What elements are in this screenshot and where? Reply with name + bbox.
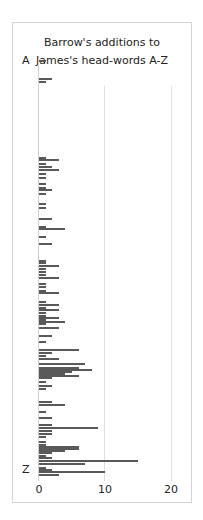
bar <box>39 286 46 288</box>
bar <box>39 78 52 80</box>
bar <box>39 304 59 306</box>
bar <box>39 228 65 230</box>
bar <box>39 401 52 403</box>
gridline-10 <box>104 86 105 481</box>
bar <box>39 411 46 413</box>
bar <box>39 236 46 238</box>
bar <box>39 404 65 406</box>
bar <box>39 460 138 462</box>
bar <box>39 166 52 168</box>
bar <box>39 327 59 329</box>
bar <box>39 262 46 264</box>
plot-area <box>0 0 203 520</box>
bar <box>39 81 46 83</box>
bar <box>39 424 52 426</box>
bar <box>39 189 52 191</box>
bar <box>39 349 79 351</box>
bar <box>39 268 46 270</box>
bar <box>39 243 52 245</box>
bar <box>39 173 46 175</box>
bar <box>39 388 46 390</box>
bar <box>39 159 59 161</box>
x-tick-10: 10 <box>98 483 112 496</box>
bar <box>39 271 46 273</box>
bar <box>39 292 59 294</box>
bar <box>39 177 46 179</box>
bar <box>39 436 46 438</box>
bar <box>39 452 52 454</box>
bar <box>39 463 85 465</box>
bar <box>39 301 46 303</box>
bar <box>39 60 46 62</box>
bar <box>39 183 46 185</box>
bar <box>39 363 85 365</box>
bar <box>39 309 59 311</box>
bar <box>39 430 52 432</box>
bar <box>39 441 46 443</box>
bar <box>39 381 46 383</box>
x-tick-20: 20 <box>164 483 178 496</box>
bar <box>39 203 46 205</box>
bar <box>39 335 52 337</box>
bar <box>39 312 46 314</box>
bar <box>39 352 52 354</box>
bar <box>39 277 59 279</box>
bar <box>39 471 105 473</box>
bar <box>39 433 52 435</box>
bar <box>39 474 59 476</box>
bar <box>39 283 46 285</box>
gridline-20 <box>171 86 172 481</box>
bar <box>39 163 46 165</box>
bar <box>39 169 59 171</box>
bar <box>39 377 52 379</box>
x-tick-0: 0 <box>36 483 43 496</box>
bar <box>39 207 46 209</box>
bar <box>39 341 46 343</box>
bar <box>39 358 59 360</box>
bar <box>39 385 52 387</box>
bar <box>39 218 52 220</box>
bar <box>39 323 46 325</box>
bar <box>39 355 46 357</box>
bar <box>39 417 52 419</box>
bar <box>39 274 46 276</box>
bar <box>39 265 59 267</box>
bar <box>39 427 98 429</box>
bar <box>39 457 52 459</box>
bar <box>39 193 46 195</box>
